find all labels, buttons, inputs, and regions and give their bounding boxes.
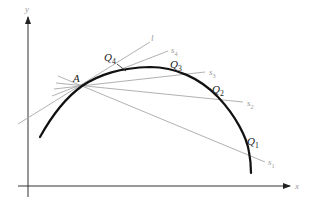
secant-label-s4: s4 — [171, 45, 179, 57]
point-a-label: A — [72, 72, 80, 84]
secant-label-s1: s1 — [268, 157, 275, 169]
tangent-label: l — [151, 33, 154, 43]
x-axis-label: x — [294, 181, 299, 191]
point-q4-label: Q4 — [104, 51, 116, 66]
y-axis-label: y — [24, 4, 29, 14]
secant-label-s2: s2 — [247, 98, 254, 110]
secant-label-s3: s3 — [209, 67, 216, 79]
secant-lines-group — [18, 42, 265, 162]
secant-tangent-diagram: x y A ls1Q1s2Q2s3Q3s4Q4 — [0, 0, 312, 202]
tangent-line-l — [18, 42, 150, 124]
